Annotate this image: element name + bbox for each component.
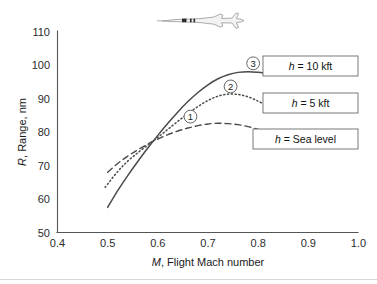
x-tick-label: 0.9: [301, 237, 316, 249]
x-tick-label: 0.8: [251, 237, 266, 249]
x-tick-label: 0.4: [50, 237, 65, 249]
series-marker-label: 1: [188, 111, 193, 122]
series-marker-label: 2: [228, 81, 233, 92]
x-axis-title: M, Flight Mach number: [152, 256, 265, 268]
y-tick-label: 80: [38, 126, 50, 138]
y-tick-label: 90: [38, 93, 50, 105]
legend-item-sea-level: h = Sea level: [253, 129, 358, 149]
range-vs-mach-line-chart: 110 100 90 80 70 60 50 0.4 0.5 0.6 0.7 0…: [0, 0, 377, 284]
chart-figure: 110 100 90 80 70 60 50 0.4 0.5 0.6 0.7 0…: [0, 0, 377, 284]
series-marker-2: 2: [224, 80, 237, 93]
y-axis-title-rest: , Range, nm: [16, 98, 28, 158]
x-tick-labels: 0.4 0.5 0.6 0.7 0.8 0.9 1.0: [50, 237, 366, 249]
y-tick-labels: 110 100 90 80 70 60 50: [32, 26, 50, 239]
y-tick-label: 60: [38, 193, 50, 205]
x-tick-label: 1.0: [351, 237, 366, 249]
x-tick-label: 0.6: [150, 237, 165, 249]
y-axis-title-symbol: R: [16, 158, 28, 166]
legend-item-5kft: h = 5 kft: [263, 93, 358, 113]
y-tick-label: 100: [32, 59, 50, 71]
y-tick-label: 50: [38, 227, 50, 239]
legend-label: h = Sea level: [275, 133, 336, 145]
y-tick-label: 70: [38, 160, 50, 172]
legend-label: h = 10 kft: [289, 60, 333, 72]
legend-rest: = 10 kft: [295, 60, 333, 72]
x-tick-label: 0.5: [100, 237, 115, 249]
series-marker-1: 1: [184, 110, 197, 123]
y-axis-title: R, Range, nm: [16, 98, 28, 166]
legend-rest: = 5 kft: [298, 97, 330, 109]
y-tick-label: 110: [32, 26, 50, 38]
series-line-10kft: [108, 72, 266, 208]
x-tick-label: 0.7: [200, 237, 215, 249]
legend-rest: = Sea level: [281, 133, 336, 145]
x-axis-title-rest: , Flight Mach number: [161, 256, 265, 268]
aircraft-top-view-icon: [157, 13, 244, 28]
legend-label: h = 5 kft: [292, 97, 330, 109]
series-line-sea-level: [108, 123, 266, 172]
legend-item-10kft: h = 10 kft: [263, 56, 358, 76]
series-marker-label: 3: [251, 58, 256, 69]
series-marker-3: 3: [247, 57, 260, 70]
